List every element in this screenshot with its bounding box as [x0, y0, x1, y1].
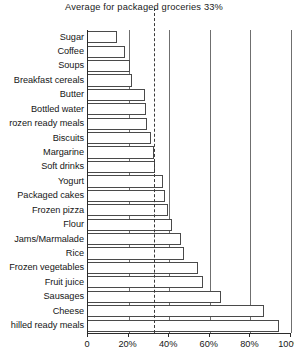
bar [88, 118, 147, 130]
bar-row [88, 232, 291, 246]
category-label: rozen ready meals [0, 117, 87, 131]
category-label: Coffee [0, 44, 87, 58]
category-label: Breakfast cereals [0, 73, 87, 87]
bar-row [88, 30, 291, 44]
bar [88, 74, 132, 86]
bar-row [88, 59, 291, 73]
category-label: Butter [0, 88, 87, 102]
bar-row [88, 203, 291, 217]
x-axis-tick-label: 40% [159, 339, 177, 349]
category-label: Packaged cakes [0, 189, 87, 203]
x-axis-tick [290, 333, 291, 337]
bar [88, 31, 117, 43]
x-axis: 020%40%60%80%100% [87, 333, 290, 334]
bar-chart: Average for packaged groceries 33% Sugar… [0, 0, 294, 358]
average-reference-line [154, 8, 155, 333]
category-label: Soups [0, 59, 87, 73]
bar-row [88, 189, 291, 203]
category-label: Frozen vegetables [0, 261, 87, 275]
category-label-column: SugarCoffeeSoupsBreakfast cerealsButterB… [0, 30, 87, 333]
bar-row [88, 73, 291, 87]
bar-row [88, 246, 291, 260]
bar [88, 262, 198, 274]
bar [88, 146, 154, 158]
x-axis-tick [128, 333, 129, 337]
category-label: Jams/Marmalade [0, 232, 87, 246]
bar [88, 247, 184, 259]
x-axis-tick-label: 60% [200, 339, 218, 349]
bar [88, 89, 145, 101]
category-label: Rice [0, 246, 87, 260]
x-axis-tick [168, 333, 169, 337]
category-label: Frozen pizza [0, 203, 87, 217]
category-label: Fruit juice [0, 275, 87, 289]
bar-row [88, 44, 291, 58]
x-axis-tick-label: 80% [240, 339, 258, 349]
bar-row [88, 290, 291, 304]
bar [88, 46, 125, 58]
bar-row [88, 304, 291, 318]
bar [88, 60, 130, 72]
bar [88, 161, 155, 173]
bar-row [88, 318, 291, 332]
category-label: Margarine [0, 145, 87, 159]
bar [88, 103, 146, 115]
bar-row [88, 261, 291, 275]
x-axis-tick-label: 0 [84, 339, 89, 349]
bar-row [88, 275, 291, 289]
bar [88, 219, 172, 231]
x-axis-tick [249, 333, 250, 337]
category-label: hilled ready meals [0, 318, 87, 332]
bar-row [88, 102, 291, 116]
bar [88, 233, 181, 245]
gridline [291, 30, 292, 333]
plot-area [87, 30, 291, 333]
bar-row [88, 217, 291, 231]
bar-row [88, 131, 291, 145]
category-label: Biscuits [0, 131, 87, 145]
average-annotation-caption: Average for packaged groceries 33% [0, 2, 288, 12]
bar [88, 276, 203, 288]
bar-row [88, 174, 291, 188]
bar-series [88, 30, 291, 333]
bar [88, 320, 279, 332]
category-label: Sausages [0, 290, 87, 304]
bar-row [88, 117, 291, 131]
x-axis-tick [209, 333, 210, 337]
bar-row [88, 145, 291, 159]
category-label: Bottled water [0, 102, 87, 116]
category-label: Soft drinks [0, 160, 87, 174]
bar-row [88, 160, 291, 174]
category-label: Yogurt [0, 174, 87, 188]
category-label: Cheese [0, 304, 87, 318]
bar [88, 305, 264, 317]
category-label: Sugar [0, 30, 87, 44]
bar [88, 204, 168, 216]
category-label: Flour [0, 217, 87, 231]
bar-row [88, 88, 291, 102]
x-axis-tick-label: 100% [278, 339, 294, 349]
x-axis-tick [87, 333, 88, 337]
bar [88, 175, 163, 187]
bar [88, 132, 151, 144]
x-axis-tick-label: 20% [118, 339, 136, 349]
